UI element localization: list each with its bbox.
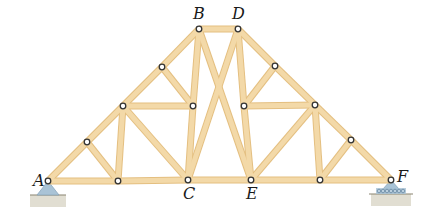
pin-n6 <box>348 137 354 143</box>
pin-n5 <box>312 102 318 108</box>
label-E: E <box>246 186 258 202</box>
pin-F <box>388 177 394 183</box>
pin-m2 <box>241 103 247 109</box>
pin-n1 <box>84 139 90 145</box>
pin-b1 <box>115 178 121 184</box>
pin-B <box>196 26 202 32</box>
truss-diagram <box>0 0 436 219</box>
pin-C <box>185 177 191 183</box>
pin-m1 <box>190 103 196 109</box>
label-D: D <box>232 6 245 22</box>
pin-A <box>45 178 51 184</box>
label-A: A <box>33 173 45 189</box>
pin-n4 <box>272 63 278 69</box>
truss-members <box>48 29 391 181</box>
label-C: C <box>183 186 195 202</box>
pin-n3 <box>159 64 165 70</box>
label-B: B <box>193 6 205 22</box>
pin-b2 <box>317 177 323 183</box>
pin-D <box>235 26 241 32</box>
pin-n2 <box>120 103 126 109</box>
pin-E <box>248 177 254 183</box>
label-F: F <box>397 169 408 185</box>
